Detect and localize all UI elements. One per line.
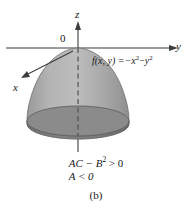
figure-caption: (b) xyxy=(0,190,192,201)
condition-discriminant-prefix: AC − B xyxy=(69,157,103,169)
function-equation-lhs: f(x, y) = xyxy=(92,55,125,66)
z-axis-label: z xyxy=(75,9,79,20)
function-equation-term1: −x xyxy=(125,55,136,66)
condition-line-discriminant: AC − B2 > 0 xyxy=(69,157,124,170)
figure-container: z y x 0 f(x, y) =−x2−y2 AC − B2 > 0 A < … xyxy=(0,0,192,211)
function-equation-label: f(x, y) =−x2−y2 xyxy=(92,55,153,66)
y-axis xyxy=(6,45,178,51)
condition-discriminant-suffix: > 0 xyxy=(106,157,123,169)
function-equation-term2-exponent: 2 xyxy=(149,54,152,61)
x-axis-label: x xyxy=(13,82,18,93)
condition-a-sign-text: A < 0 xyxy=(69,170,94,182)
conditions-block: AC − B2 > 0 A < 0 xyxy=(0,157,192,184)
y-axis-label: y xyxy=(176,41,181,52)
condition-line-a-sign: A < 0 xyxy=(69,170,124,183)
origin-label: 0 xyxy=(60,33,66,44)
